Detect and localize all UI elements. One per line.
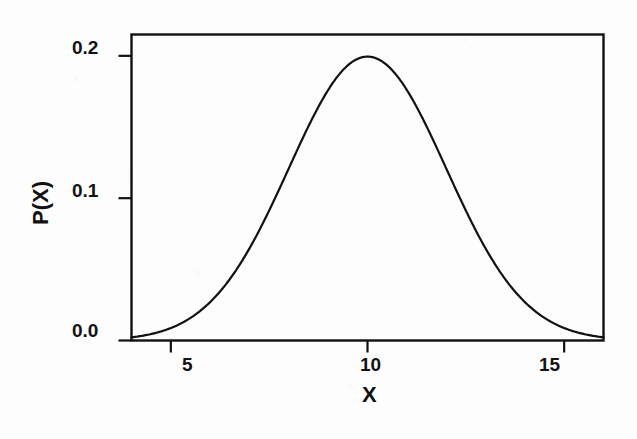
distribution-curve	[132, 57, 604, 338]
x-tick-label-5: 5	[182, 355, 193, 374]
y-tick-label-0.0: 0.0	[72, 321, 98, 340]
x-tick-label-15: 15	[539, 355, 560, 374]
x-axis-title: X	[362, 384, 377, 406]
x-axis-tick-marks	[171, 341, 564, 353]
figure-canvas: 0.2 0.1 0.0 5 10 15 P(X) X	[0, 0, 637, 439]
y-axis-title: P(X)	[30, 181, 52, 225]
y-tick-label-0.2: 0.2	[72, 38, 98, 57]
x-tick-label-10: 10	[360, 355, 381, 374]
y-tick-label-0.1: 0.1	[72, 181, 98, 200]
y-axis-tick-marks	[119, 56, 132, 341]
plot-frame-border	[132, 35, 604, 341]
